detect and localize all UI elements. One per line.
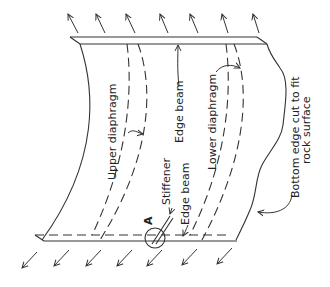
detail-a-circle [145, 228, 165, 248]
shell-structure-diagram: Upper diaphragm Edge beam Lower diaphrag… [0, 0, 330, 287]
label-upper-diaphragm: Upper diaphragm [106, 84, 119, 181]
label-edge-beam-top: Edge beam [173, 81, 186, 143]
stiffener-leader [170, 208, 172, 214]
bottom-edge-beam [35, 235, 237, 241]
upper-diaphragm-leader [128, 131, 143, 134]
label-edge-beam-bottom: Edge beam [179, 163, 192, 225]
bottom-edge-beam-leader [183, 225, 188, 236]
rock-edge-leader [258, 195, 292, 213]
label-detail-a: A [142, 216, 155, 225]
top-load-arrows [68, 14, 259, 33]
label-stiffener: Stiffener [160, 158, 173, 205]
bottom-load-arrows [22, 248, 232, 268]
left-shell-edge [42, 44, 90, 240]
top-edge-beam-leader [178, 45, 179, 86]
top-edge-beam [70, 37, 267, 44]
label-bottom-edge-line2: rock surface [300, 96, 313, 164]
label-lower-diaphragm: Lower diaphragm [206, 74, 219, 170]
